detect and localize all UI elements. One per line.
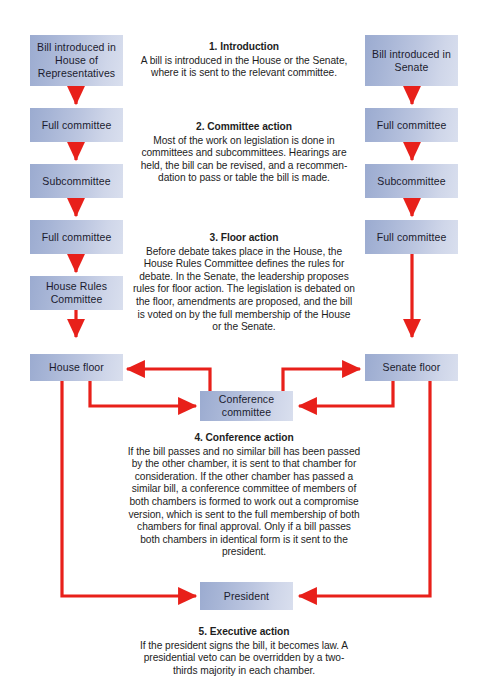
node-house-floor-label: House floor	[47, 361, 106, 374]
node-house-full-committee-2-label: Full committee	[40, 231, 114, 244]
step-1-body: A bill is introduced in the House or the…	[141, 55, 348, 79]
step-1-introduction: 1. Introduction A bill is introduced in …	[134, 41, 354, 80]
step-3-heading: 3. Floor action	[132, 232, 356, 245]
node-house-full-committee-1[interactable]: Full committee	[30, 108, 123, 142]
step-5-body: If the president signs the bill, it beco…	[140, 640, 348, 676]
node-house-bill-label: Bill introduced in House of Representati…	[30, 41, 123, 80]
node-house-full-committee-2[interactable]: Full committee	[30, 220, 123, 254]
node-house-bill[interactable]: Bill introduced in House of Representati…	[30, 35, 123, 86]
flowchart-diagram: Bill introduced in House of Representati…	[0, 0, 487, 686]
step-4-body: If the bill passes and no similar bill h…	[128, 446, 360, 558]
node-president[interactable]: President	[200, 582, 293, 610]
node-house-rules-committee-label: House Rules Committee	[30, 280, 123, 306]
node-senate-full-committee-2-label: Full committee	[375, 231, 449, 244]
node-senate-bill[interactable]: Bill introduced in Senate	[365, 35, 458, 86]
node-conference-committee[interactable]: Conference committee	[200, 391, 293, 421]
node-senate-floor[interactable]: Senate floor	[365, 354, 458, 381]
node-senate-full-committee-2[interactable]: Full committee	[365, 220, 458, 254]
node-senate-bill-label: Bill introduced in Senate	[365, 48, 458, 74]
node-senate-subcommittee-label: Subcommittee	[375, 175, 447, 188]
step-2-committee-action: 2. Committee action Most of the work on …	[136, 121, 352, 185]
step-3-body: Before debate takes place in the House, …	[133, 246, 355, 333]
node-senate-full-committee-1[interactable]: Full committee	[365, 108, 458, 142]
step-5-heading: 5. Executive action	[132, 626, 356, 639]
step-5-executive-action: 5. Executive action If the president sig…	[132, 626, 356, 677]
step-4-conference-action: 4. Conference action If the bill passes …	[126, 432, 362, 559]
step-3-floor-action: 3. Floor action Before debate takes plac…	[132, 232, 356, 334]
step-2-body: Most of the work on legislation is done …	[141, 135, 348, 184]
node-house-rules-committee[interactable]: House Rules Committee	[30, 276, 123, 310]
node-senate-floor-label: Senate floor	[381, 361, 443, 374]
node-house-full-committee-1-label: Full committee	[40, 119, 114, 132]
node-conference-committee-label: Conference committee	[200, 393, 293, 419]
node-senate-full-committee-1-label: Full committee	[375, 119, 449, 132]
step-2-heading: 2. Committee action	[136, 121, 352, 134]
step-1-heading: 1. Introduction	[134, 41, 354, 54]
node-president-label: President	[222, 590, 271, 603]
node-house-floor[interactable]: House floor	[30, 354, 123, 381]
node-house-subcommittee-label: Subcommittee	[40, 175, 112, 188]
step-4-heading: 4. Conference action	[126, 432, 362, 445]
node-house-subcommittee[interactable]: Subcommittee	[30, 164, 123, 198]
node-senate-subcommittee[interactable]: Subcommittee	[365, 164, 458, 198]
